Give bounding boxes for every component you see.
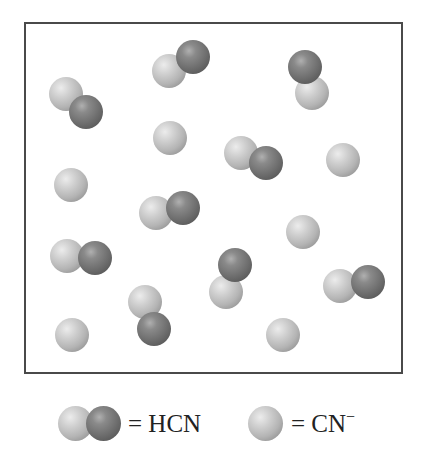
dark-sphere-icon <box>166 191 200 225</box>
light-sphere-icon <box>153 121 187 155</box>
light-sphere-icon <box>54 168 88 202</box>
light-sphere-icon <box>266 318 300 352</box>
legend-cn-text: CN <box>311 410 346 437</box>
light-sphere-icon <box>286 215 320 249</box>
light-sphere-icon <box>55 318 89 352</box>
legend-hcn-label: = HCN <box>128 408 201 440</box>
legend-cn-label: = CN− <box>291 408 355 443</box>
dark-sphere-icon <box>351 265 385 299</box>
legend-cn-charge: − <box>346 408 355 425</box>
dark-sphere-icon <box>69 95 103 129</box>
dark-sphere-icon <box>218 248 252 282</box>
dark-sphere-icon <box>176 40 210 74</box>
dark-sphere-icon <box>78 241 112 275</box>
legend-cn-sphere-icon <box>248 406 283 441</box>
legend-hcn-equals: = <box>128 410 142 437</box>
legend: = HCN = CN− <box>0 404 424 444</box>
light-sphere-icon <box>326 143 360 177</box>
legend-cn-equals: = <box>291 410 305 437</box>
dark-sphere-icon <box>137 312 171 346</box>
dark-sphere-icon <box>249 146 283 180</box>
legend-hcn-text: HCN <box>148 410 201 437</box>
hcn-dark-sphere-icon <box>86 406 121 441</box>
dark-sphere-icon <box>288 50 322 84</box>
